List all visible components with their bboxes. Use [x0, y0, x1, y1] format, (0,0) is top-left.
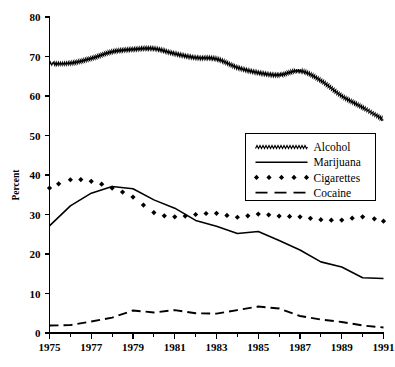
chart-container: 01020304050607080 1975197719791981198319… — [0, 0, 395, 367]
legend-label: Cigarettes — [314, 172, 361, 185]
x-tick-label: 1981 — [164, 341, 186, 353]
legend-label: Marijuana — [314, 156, 361, 169]
x-tick-label: 1985 — [247, 341, 270, 353]
y-tick-label: 40 — [30, 169, 42, 181]
x-tick-label: 1977 — [80, 341, 103, 353]
y-tick-label: 20 — [30, 248, 42, 260]
x-tick-label: 1987 — [289, 341, 312, 353]
y-tick-label: 70 — [30, 51, 42, 63]
line-chart: 01020304050607080 1975197719791981198319… — [0, 0, 395, 367]
chart-legend: AlcoholMarijuanaCigarettesCocaine — [246, 134, 376, 201]
y-tick-label: 50 — [30, 130, 42, 142]
y-tick-label: 80 — [30, 11, 42, 23]
x-tick-label: 1983 — [206, 341, 229, 353]
x-tick-label: 1989 — [331, 341, 354, 353]
y-tick-label: 0 — [35, 327, 41, 339]
x-tick-label: 1979 — [122, 341, 145, 353]
y-tick-label: 60 — [30, 90, 42, 102]
legend-label: Alcohol — [314, 141, 351, 153]
y-tick-label: 30 — [30, 209, 42, 221]
x-tick-label: 1991 — [373, 341, 395, 353]
x-tick-label: 1975 — [39, 341, 62, 353]
y-axis-title: Percent — [11, 169, 21, 201]
y-tick-label: 10 — [30, 288, 42, 300]
legend-label: Cocaine — [314, 187, 352, 199]
